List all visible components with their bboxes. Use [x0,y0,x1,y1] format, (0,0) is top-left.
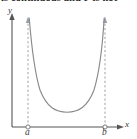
math-figure: is continuous and F is not y x a [0,0,137,139]
asymptote-left [26,17,30,128]
y-axis-label: y [8,6,12,15]
x-tick-label-a: a [25,128,30,138]
x-axis-label: x [125,120,129,129]
y-axis [9,13,14,127]
plot-canvas [0,0,137,139]
function-curve [29,18,104,112]
x-axis-arrowhead [117,124,124,129]
x-tick-label-b: b [102,128,107,138]
